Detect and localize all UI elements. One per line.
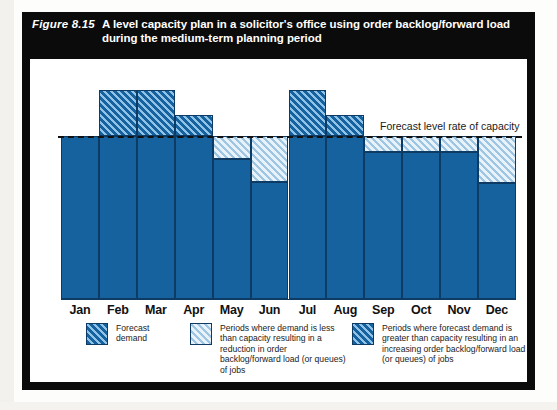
solid-hatch-swatch-icon — [352, 323, 374, 345]
bar-segment-work-done — [175, 136, 213, 299]
bar-segment-excess-demand — [326, 115, 364, 136]
bar-segment-excess-demand — [289, 90, 327, 136]
bar-jun — [251, 59, 289, 299]
bar-segment-work-done — [364, 152, 402, 299]
bar-segment-work-done — [61, 136, 99, 299]
month-label-dec: Dec — [478, 303, 516, 317]
bar-apr — [175, 59, 213, 299]
legend-item-under-capacity: Periods where demand is less than capaci… — [190, 323, 348, 375]
month-label-apr: Apr — [175, 303, 213, 317]
capacity-line — [58, 136, 522, 138]
bar-jan — [61, 59, 99, 299]
bar-segment-spare-capacity — [402, 136, 440, 152]
bar-nov — [440, 59, 478, 299]
capacity-line-label: Forecast level rate of capacity — [380, 120, 519, 132]
bar-aug — [326, 59, 364, 299]
month-label-jan: Jan — [61, 303, 99, 317]
bar-jul — [289, 59, 327, 299]
bar-feb — [99, 59, 137, 299]
light-hatch-swatch-icon — [190, 323, 212, 345]
bar-segment-excess-demand — [175, 115, 213, 136]
month-label-sep: Sep — [364, 303, 402, 317]
bar-sep — [364, 59, 402, 299]
bar-dec — [478, 59, 516, 299]
bar-segment-work-done — [289, 136, 327, 299]
month-label-aug: Aug — [326, 303, 364, 317]
page-bottom-edge — [0, 402, 557, 410]
plot-area: Forecast level rate of capacity JanFebMa… — [30, 59, 527, 307]
bar-segment-excess-demand — [137, 90, 175, 136]
bar-segment-work-done — [402, 152, 440, 299]
bar-segment-spare-capacity — [213, 136, 251, 159]
figure-title: A level capacity plan in a solicitor's o… — [102, 18, 525, 45]
bar-segment-spare-capacity — [251, 136, 289, 182]
bar-may — [213, 59, 251, 299]
month-label-oct: Oct — [402, 303, 440, 317]
month-label-jul: Jul — [288, 303, 326, 317]
page-left-edge — [0, 0, 14, 410]
bar-segment-spare-capacity — [440, 136, 478, 152]
x-axis-tick-labels: JanFebMarAprMayJunJulAugSepOctNovDec — [61, 303, 516, 317]
month-label-mar: Mar — [137, 303, 175, 317]
bar-segment-spare-capacity — [478, 136, 516, 183]
dark-hatch-swatch-icon — [86, 323, 108, 345]
legend-item-over-capacity: Periods where forecast demand is greater… — [352, 323, 532, 365]
figure-number: Figure 8.15 — [32, 18, 95, 32]
page-root: Figure 8.15 A level capacity plan in a s… — [0, 0, 557, 410]
bar-segment-excess-demand — [99, 90, 137, 136]
bar-segment-work-done — [213, 159, 251, 299]
legend-label-over-capacity: Periods where forecast demand is greater… — [382, 323, 532, 365]
bar-segment-work-done — [137, 136, 175, 299]
x-axis — [61, 299, 516, 300]
legend-item-forecast-demand: Forecast demand — [86, 323, 176, 345]
figure-frame: Figure 8.15 A level capacity plan in a s… — [22, 12, 535, 390]
month-label-feb: Feb — [99, 303, 137, 317]
month-label-may: May — [213, 303, 251, 317]
month-label-nov: Nov — [440, 303, 478, 317]
bar-segment-spare-capacity — [364, 136, 402, 152]
bar-mar — [137, 59, 175, 299]
bar-group — [61, 59, 516, 299]
figure-caption: Figure 8.15 A level capacity plan in a s… — [22, 12, 535, 56]
bar-segment-work-done — [440, 152, 478, 299]
month-label-jun: Jun — [251, 303, 289, 317]
bar-segment-work-done — [326, 136, 364, 299]
bar-oct — [402, 59, 440, 299]
chart-panel: Forecast level rate of capacity JanFebMa… — [30, 59, 527, 382]
bar-segment-work-done — [99, 136, 137, 299]
chart-legend: Forecast demand Periods where demand is … — [30, 321, 527, 381]
legend-label-forecast-demand: Forecast demand — [116, 323, 176, 345]
legend-label-under-capacity: Periods where demand is less than capaci… — [220, 323, 348, 375]
bar-segment-work-done — [251, 182, 289, 299]
bar-segment-work-done — [478, 183, 516, 299]
